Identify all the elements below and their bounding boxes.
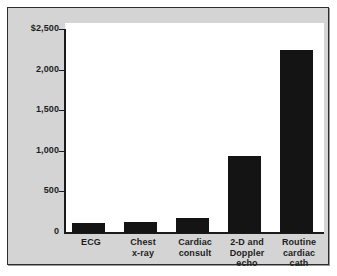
figure-container: $2,500 2,000 1,500 1,000 500 0 [0, 0, 337, 276]
bars-layer [65, 23, 324, 233]
category-label-2d-doppler-echo-line-3: echo [221, 258, 273, 269]
chart-frame: $2,500 2,000 1,500 1,000 500 0 [7, 7, 329, 265]
category-label-cardiac-consult-line-1: Cardiac [169, 237, 221, 248]
y-tick-label-2500: $2,500 [15, 23, 59, 33]
category-label-routine-cardiac-cath-line-2: cardiac [273, 248, 325, 259]
y-tick-label-wrap-1500: 1,500 [8, 110, 59, 111]
category-label-cardiac-consult-line-2: consult [169, 248, 221, 259]
bar-2d-doppler-echo [228, 156, 261, 233]
category-label-2d-doppler-echo-line-2: Doppler [221, 248, 273, 259]
y-tick-label-0: 0 [15, 226, 59, 236]
category-label-ecg-line-1: ECG [65, 237, 117, 248]
y-tick-label-2000: 2,000 [15, 64, 59, 74]
y-tick-label-500: 500 [15, 185, 59, 195]
bar-chest-xray [124, 222, 157, 233]
bar-slot-cardiac-consult [169, 23, 221, 233]
y-tick-label-wrap-2000: 2,000 [8, 70, 59, 71]
category-label-chest-xray-line-2: x-ray [117, 248, 169, 259]
y-tick-label-wrap-2500: $2,500 [8, 29, 59, 30]
y-tick-label-wrap-1000: 1,000 [8, 151, 59, 152]
category-label-routine-cardiac-cath-line-3: cath [273, 258, 325, 269]
category-label-routine-cardiac-cath-line-1: Routine [273, 237, 325, 248]
category-label-chest-xray: Chest x-ray [117, 237, 169, 258]
category-label-ecg: ECG [65, 237, 117, 248]
y-tick-label-1500: 1,500 [15, 104, 59, 114]
bar-cardiac-consult [176, 218, 209, 234]
y-tick-label-wrap-0: 0 [8, 232, 59, 233]
category-label-routine-cardiac-cath: Routine cardiac cath [273, 237, 325, 269]
bar-ecg [72, 223, 105, 233]
y-tick-label-wrap-500: 500 [8, 191, 59, 192]
bar-slot-routine-cardiac-cath [273, 23, 325, 233]
category-label-2d-doppler-echo-line-1: 2-D and [221, 237, 273, 248]
category-label-chest-xray-line-1: Chest [117, 237, 169, 248]
bar-slot-chest-xray [117, 23, 169, 233]
bar-routine-cardiac-cath [280, 50, 313, 233]
category-label-2d-doppler-echo: 2-D and Doppler echo [221, 237, 273, 269]
bar-slot-ecg [65, 23, 117, 233]
y-tick-label-1000: 1,000 [15, 145, 59, 155]
category-label-cardiac-consult: Cardiac consult [169, 237, 221, 258]
bar-slot-2d-doppler-echo [221, 23, 273, 233]
